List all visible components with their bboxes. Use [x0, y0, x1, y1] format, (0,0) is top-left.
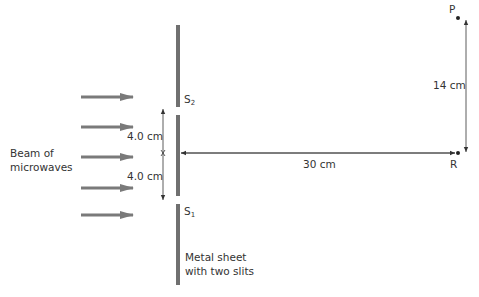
sheet-segment-middle: [176, 115, 180, 196]
distance-30cm-label: 30 cm: [303, 157, 336, 171]
point-r-label: R: [450, 157, 457, 171]
dimension-lower-label: 4.0 cm: [127, 169, 163, 183]
sheet-segment-bottom: [176, 204, 180, 285]
slit-s1-label: S1: [184, 204, 195, 222]
dimension-upper-label: 4.0 cm: [127, 129, 163, 143]
beam-label: Beam of microwaves: [10, 146, 73, 174]
point-r-dot: [456, 151, 460, 155]
slit-s2-label: S2: [184, 92, 195, 110]
metal-sheet: [176, 25, 180, 285]
point-p-dot: [456, 16, 460, 20]
sheet-label: Metal sheet with two slits: [185, 250, 254, 278]
distance-14cm-label: 14 cm: [433, 78, 466, 92]
point-p-label: P: [449, 2, 455, 16]
sheet-segment-top: [176, 25, 180, 107]
slit-spacing-dimension: [161, 109, 165, 200]
microwave-beam-arrows: [81, 97, 133, 215]
